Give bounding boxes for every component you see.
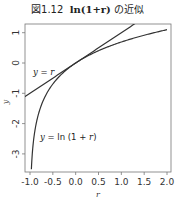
- chart-plot: -1.0-0.50.00.51.01.52.0 -3-2-101 r y y =…: [0, 0, 175, 199]
- y-tick-label: -1: [11, 89, 21, 98]
- series-lines: [23, 0, 171, 169]
- x-axis-label: r: [96, 190, 101, 199]
- y-tick-label: -2: [11, 119, 21, 128]
- y-axis: -3-2-101: [11, 30, 25, 159]
- plot-frame: [25, 24, 171, 172]
- y-tick-label: 0: [11, 60, 21, 66]
- x-tick-label: 1.0: [114, 177, 129, 187]
- x-tick-label: 1.5: [137, 177, 151, 187]
- label-y-equals-ln: y = ln (1 + r): [39, 132, 96, 142]
- line-y-equals-r: [23, 0, 171, 98]
- x-tick-label: 2.0: [160, 177, 175, 187]
- y-tick-label: -3: [11, 149, 21, 158]
- y-axis-label: y: [1, 99, 10, 105]
- x-tick-label: 0.0: [69, 177, 84, 187]
- x-tick-label: -1.0: [21, 177, 39, 187]
- y-tick-label: 1: [11, 30, 21, 36]
- x-tick-label: -0.5: [44, 177, 62, 187]
- label-y-equals-r: y = r: [32, 67, 55, 77]
- x-tick-label: 0.5: [91, 177, 105, 187]
- curve-ln-1-plus-r: [31, 30, 167, 170]
- x-axis: -1.0-0.50.00.51.01.52.0: [21, 172, 174, 187]
